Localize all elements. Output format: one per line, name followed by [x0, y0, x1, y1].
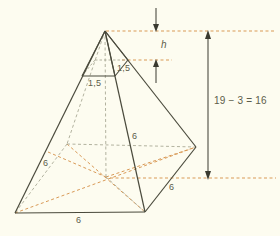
mid-level-square — [48, 147, 196, 177]
label-small-height: h — [161, 39, 167, 50]
label-base-front-edge: 6 — [76, 215, 81, 225]
hidden-base-rear-left — [15, 144, 67, 213]
mid-edge-1 — [48, 152, 106, 177]
total-height-dimension — [205, 30, 211, 180]
label-top-edge-right: 1,5 — [117, 63, 130, 73]
hidden-base-rear-right — [67, 144, 196, 147]
total-height-arrow-bottom — [205, 171, 211, 180]
label-left-slant-edge: 6 — [43, 158, 48, 168]
top-small-edge-left — [82, 31, 105, 76]
label-rear-edge: 6 — [132, 131, 137, 141]
label-right-slant-edge: 6 — [169, 182, 174, 192]
label-total-height-equation: 19 − 3 = 16 — [214, 95, 267, 106]
h-arrow-lower-head — [153, 59, 159, 67]
base-edge-front — [15, 212, 145, 213]
geometry-figure: h 1,5 1,5 6 6 6 6 19 − 3 = 16 — [0, 0, 280, 236]
small-height-dimension — [153, 8, 159, 83]
pyramid-drawing — [0, 0, 280, 236]
hidden-vertical-axis — [105, 31, 106, 177]
label-top-edge-left: 1,5 — [88, 78, 101, 88]
